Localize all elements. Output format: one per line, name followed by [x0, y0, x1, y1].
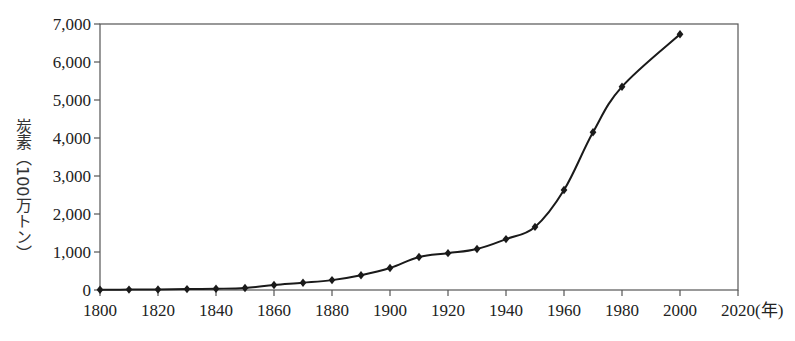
- y-tick-label: 7,000: [53, 15, 91, 34]
- y-tick-label: 5,000: [53, 91, 91, 110]
- x-tick-label: 1880: [315, 301, 349, 320]
- diamond-marker-icon: [416, 253, 423, 261]
- diamond-marker-icon: [242, 284, 249, 292]
- x-tick-label: 1940: [489, 301, 523, 320]
- x-tick-label: 1920: [431, 301, 465, 320]
- diamond-marker-icon: [271, 281, 278, 289]
- x-tick-label: 2000: [663, 301, 697, 320]
- line-chart: 01,0002,0003,0004,0005,0006,0007,000 180…: [0, 0, 795, 341]
- x-tick-label: 1820: [141, 301, 175, 320]
- y-tick-label: 1,000: [53, 243, 91, 262]
- x-tick-label: 1980: [605, 301, 639, 320]
- diamond-marker-icon: [126, 285, 133, 293]
- diamond-marker-icon: [329, 276, 336, 284]
- y-tick-label: 3,000: [53, 167, 91, 186]
- x-tick-label: 1860: [257, 301, 291, 320]
- y-axis: 01,0002,0003,0004,0005,0006,0007,000: [53, 15, 100, 300]
- diamond-marker-icon: [503, 235, 510, 243]
- data-series: [97, 30, 684, 294]
- plot-area-border: [100, 24, 738, 290]
- x-tick-label: 2020(年): [721, 301, 783, 320]
- y-tick-label: 0: [83, 281, 92, 300]
- diamond-marker-icon: [184, 285, 191, 293]
- diamond-marker-icon: [387, 264, 394, 272]
- x-tick-label: 1800: [83, 301, 117, 320]
- diamond-marker-icon: [358, 271, 365, 279]
- diamond-marker-icon: [300, 279, 307, 287]
- y-tick-label: 4,000: [53, 129, 91, 148]
- diamond-marker-icon: [445, 249, 452, 257]
- series-line: [100, 34, 680, 289]
- x-axis: 1800182018401860188019001920194019601980…: [83, 290, 783, 320]
- x-tick-label: 1840: [199, 301, 233, 320]
- y-tick-label: 6,000: [53, 53, 91, 72]
- diamond-marker-icon: [474, 245, 481, 253]
- y-axis-label: 炭素（100万トン）: [10, 118, 32, 261]
- diamond-marker-icon: [97, 285, 104, 293]
- diamond-marker-icon: [213, 285, 220, 293]
- plot-frame: [100, 24, 738, 290]
- diamond-marker-icon: [155, 285, 162, 293]
- x-tick-label: 1960: [547, 301, 581, 320]
- x-tick-label: 1900: [373, 301, 407, 320]
- y-tick-label: 2,000: [53, 205, 91, 224]
